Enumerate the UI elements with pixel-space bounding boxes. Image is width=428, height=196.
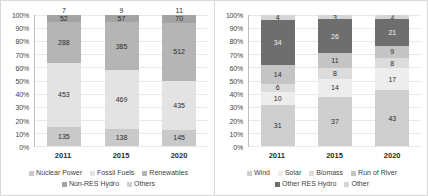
legend-item[interactable]: Nuclear Power — [25, 168, 86, 178]
bar-segment[interactable]: 43 — [375, 90, 409, 146]
legend-swatch-icon — [309, 171, 314, 176]
segment-value-label: 385 — [116, 43, 128, 50]
legend-item[interactable]: Run of River — [347, 168, 401, 178]
left-plot-area: 1354532885271384693855791454355127011 — [34, 15, 208, 147]
bar-segment[interactable]: 14 — [318, 79, 352, 98]
bar-segment[interactable]: 385 — [105, 22, 139, 70]
segment-value-label: 52 — [60, 15, 68, 22]
segment-value-label: 43 — [388, 115, 396, 122]
legend-item[interactable]: Other RES Hydro — [271, 179, 340, 189]
legend-label: Other RES Hydro — [282, 179, 336, 189]
right-y-axis: 100%90%80%70%60%50%40%30%20%10%0% — [215, 15, 246, 147]
bar-segment[interactable]: 135 — [47, 127, 81, 146]
segment-value-label: 3 — [390, 15, 394, 19]
bar-segment[interactable]: 52 — [47, 15, 81, 22]
left-bar-group: 1354532885271384693855791454355127011 — [35, 15, 208, 146]
right-bar-column: 431789213 — [364, 15, 421, 146]
segment-value-label: 14 — [331, 84, 339, 91]
legend-item[interactable]: Biomass — [305, 168, 347, 178]
legend-swatch-icon — [62, 182, 67, 187]
segment-value-label: 3 — [333, 15, 337, 19]
legend-item[interactable]: Solar — [274, 168, 305, 178]
segment-value-label: 37 — [331, 118, 339, 125]
legend-label: Run of River — [358, 168, 397, 178]
bar-segment[interactable]: 288 — [47, 22, 81, 63]
legend-item[interactable]: Others — [123, 179, 159, 189]
stacked-bar[interactable]: 135453288527 — [47, 15, 81, 146]
legend-label: Other — [351, 179, 369, 189]
left-y-axis: 100%90%80%70%60%50%40%30%20%10%0% — [1, 15, 32, 147]
legend-item[interactable]: Wind — [243, 168, 274, 178]
legend-swatch-icon — [142, 171, 147, 176]
stacked-bar[interactable]: 138469385579 — [105, 15, 139, 146]
stacked-bar[interactable]: 431789213 — [375, 15, 409, 146]
left-x-label: 2015 — [92, 149, 150, 163]
segment-value-label: 288 — [58, 39, 70, 46]
bar-segment[interactable]: 57 — [105, 15, 139, 22]
stacked-bar[interactable]: 3714811263 — [318, 15, 352, 146]
legend-swatch-icon — [344, 182, 349, 187]
segment-value-label: 138 — [116, 134, 128, 141]
bar-segment[interactable]: 145 — [162, 130, 196, 146]
legend-item[interactable]: Renewables — [138, 168, 192, 178]
legend-label: Fossil Fuels — [97, 168, 134, 178]
bar-segment[interactable]: 4 — [261, 15, 295, 20]
bar-segment[interactable]: 8 — [375, 58, 409, 68]
stacked-bar[interactable]: 1454355127011 — [162, 15, 196, 146]
bar-segment[interactable]: 6 — [261, 84, 295, 92]
legend-item[interactable]: Non-RES Hydro — [58, 179, 123, 189]
legend-label: Others — [134, 179, 155, 189]
bar-segment[interactable]: 17 — [375, 68, 409, 90]
electricity-generation-mix-chart: 100%90%80%70%60%50%40%30%20%10%0% 135453… — [0, 0, 214, 196]
bar-segment[interactable]: 512 — [162, 23, 196, 81]
bar-segment[interactable]: 10 — [261, 92, 295, 105]
legend-label: Solar — [285, 168, 301, 178]
right-y-tick: 20% — [230, 117, 243, 124]
bar-segment[interactable]: 469 — [105, 70, 139, 129]
bar-segment[interactable]: 8 — [318, 68, 352, 79]
legend-item[interactable]: Other — [340, 179, 373, 189]
bar-total-label: 7 — [47, 7, 81, 14]
right-bar-column: 3714811263 — [306, 15, 363, 146]
bar-segment[interactable]: 11 — [318, 53, 352, 68]
bar-segment[interactable]: 14 — [261, 65, 295, 84]
bar-total-label: 11 — [162, 7, 196, 14]
left-y-tick: 10% — [16, 130, 29, 137]
segment-value-label: 145 — [173, 134, 185, 141]
left-y-tick: 80% — [16, 38, 29, 45]
bar-segment[interactable]: 34 — [261, 20, 295, 65]
bar-segment[interactable]: 9 — [375, 46, 409, 58]
legend-swatch-icon — [29, 171, 34, 176]
segment-value-label: 135 — [58, 133, 70, 140]
right-y-tick: 70% — [230, 51, 243, 58]
bar-segment[interactable]: 70 — [162, 15, 196, 23]
bar-segment[interactable]: 26 — [318, 19, 352, 53]
bar-segment[interactable]: 453 — [47, 63, 81, 127]
bar-segment[interactable]: 21 — [375, 19, 409, 46]
bar-segment[interactable]: 3 — [375, 15, 409, 19]
bar-segment[interactable]: 37 — [318, 97, 352, 146]
bar-total-label: 9 — [105, 7, 139, 14]
segment-value-label: 435 — [173, 102, 185, 109]
right-y-tick: 60% — [230, 64, 243, 71]
bar-segment[interactable]: 435 — [162, 81, 196, 130]
left-gridline — [35, 146, 208, 147]
legend-item[interactable]: Fossil Fuels — [86, 168, 138, 178]
renewables-breakdown-chart: 100%90%80%70%60%50%40%30%20%10%0% 311061… — [214, 0, 428, 196]
right-y-tick: 0% — [233, 144, 243, 151]
right-y-tick: 10% — [230, 130, 243, 137]
bar-segment[interactable]: 31 — [261, 105, 295, 146]
legend-label: Wind — [254, 168, 270, 178]
right-x-label: 2020 — [363, 149, 421, 163]
legend-swatch-icon — [351, 171, 356, 176]
right-bar-group: 31106143443714811263431789213 — [249, 15, 421, 146]
stacked-bar[interactable]: 3110614344 — [261, 15, 295, 146]
bar-segment[interactable]: 3 — [318, 15, 352, 19]
left-y-tick: 50% — [16, 78, 29, 85]
bar-segment[interactable]: 138 — [105, 129, 139, 146]
segment-value-label: 9 — [390, 48, 394, 55]
left-legend: Nuclear PowerFossil FuelsRenewablesNon-R… — [9, 168, 208, 189]
segment-value-label: 11 — [331, 57, 338, 64]
segment-value-label: 70 — [175, 15, 183, 22]
legend-label: Biomass — [316, 168, 343, 178]
